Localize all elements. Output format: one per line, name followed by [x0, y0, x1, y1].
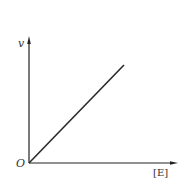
y-axis-label: v — [18, 37, 24, 50]
data-line — [29, 65, 124, 163]
x-axis-label: [E] — [153, 167, 168, 178]
y-axis-arrow-icon — [27, 36, 31, 44]
origin-label: O — [16, 157, 25, 170]
chart-plot — [0, 0, 193, 186]
x-axis-arrow-icon — [170, 161, 178, 165]
chart: v O [E] — [0, 0, 193, 186]
